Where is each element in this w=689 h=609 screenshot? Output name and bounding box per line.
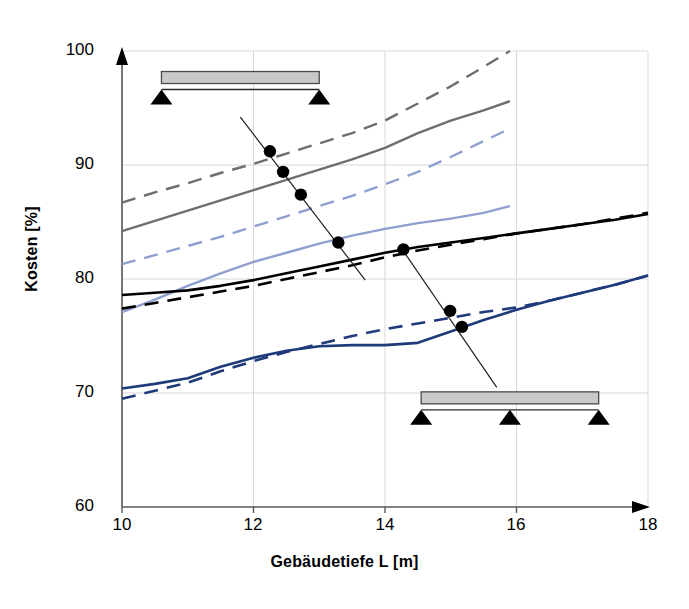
x-tick-label-14: 14 bbox=[355, 515, 415, 535]
data-point-marker bbox=[456, 321, 468, 333]
y-axis-arrow bbox=[116, 47, 128, 65]
data-point-marker bbox=[444, 305, 456, 317]
axis-lines bbox=[116, 47, 650, 513]
x-tick-label-18: 18 bbox=[618, 515, 678, 535]
data-point-marker bbox=[277, 166, 289, 178]
data-point-marker bbox=[332, 236, 344, 248]
x-axis-arrow bbox=[632, 501, 650, 513]
data-point-marker bbox=[264, 145, 276, 157]
y-axis-label: Kosten [%] bbox=[23, 179, 41, 319]
y-tick-label-70: 70 bbox=[42, 382, 94, 402]
y-tick-label-80: 80 bbox=[42, 268, 94, 288]
beam-support-triangle bbox=[499, 410, 521, 425]
beam-diagram-two-supports bbox=[150, 72, 330, 105]
y-tick-label-90: 90 bbox=[42, 154, 94, 174]
beam-slab bbox=[161, 72, 319, 84]
chart-figure: Kosten [%] Gebäudetiefe L [m] 100 90 80 … bbox=[0, 0, 689, 609]
series-line-3 bbox=[122, 206, 510, 312]
x-tick-label-16: 16 bbox=[486, 515, 546, 535]
beam-support-triangle bbox=[150, 90, 172, 105]
x-tick-label-10: 10 bbox=[92, 515, 152, 535]
x-axis-label: Gebäudetiefe L [m] bbox=[0, 553, 689, 571]
beam-slab bbox=[421, 392, 599, 404]
y-tick-label-100: 100 bbox=[42, 40, 94, 60]
data-point-marker bbox=[295, 188, 307, 200]
data-point-marker bbox=[397, 243, 409, 255]
y-tick-label-60: 60 bbox=[42, 496, 94, 516]
beam-support-triangle bbox=[308, 90, 330, 105]
beam-support-triangle bbox=[588, 410, 610, 425]
beam-diagram-three-supports bbox=[410, 392, 610, 425]
leader-line-lower bbox=[401, 248, 496, 387]
beam-support-triangle bbox=[410, 410, 432, 425]
series-line-1 bbox=[122, 101, 510, 231]
x-tick-label-12: 12 bbox=[223, 515, 283, 535]
